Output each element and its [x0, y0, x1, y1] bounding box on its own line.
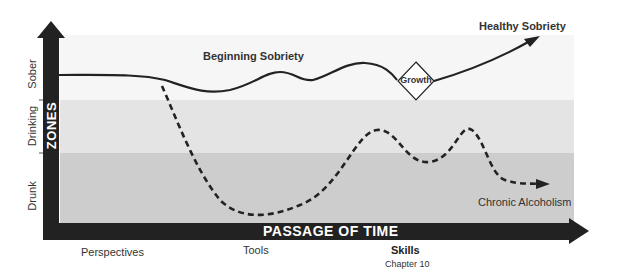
passage-of-time-label: PASSAGE OF TIME	[263, 223, 399, 239]
stage-tools: Tools	[243, 244, 269, 256]
healthy-sobriety-curve	[434, 41, 530, 81]
zone-label-drinking: Drinking	[26, 100, 38, 152]
beginning-sobriety-label: Beginning Sobriety	[203, 50, 304, 62]
y-axis-arrowhead-icon	[37, 21, 65, 38]
chronic-alcoholism-arrowhead-icon	[536, 179, 550, 189]
beginning-sobriety-curve	[59, 63, 397, 92]
zones-axis-label: ZONES	[44, 100, 59, 152]
healthy-sobriety-label: Healthy Sobriety	[479, 20, 566, 32]
growth-label: Growth	[398, 75, 434, 85]
stage-perspectives: Perspectives	[81, 246, 144, 258]
stage-skills: Skills	[391, 244, 420, 256]
healthy-sobriety-arrowhead-icon	[524, 36, 540, 47]
chronic-alcoholism-label: Chronic Alcoholism	[478, 196, 572, 208]
stage-skills-chapter: Chapter 10	[385, 259, 430, 269]
zone-label-drunk: Drunk	[26, 176, 38, 216]
x-axis-arrowhead-icon	[569, 218, 589, 244]
zone-label-sober: Sober	[26, 54, 38, 94]
